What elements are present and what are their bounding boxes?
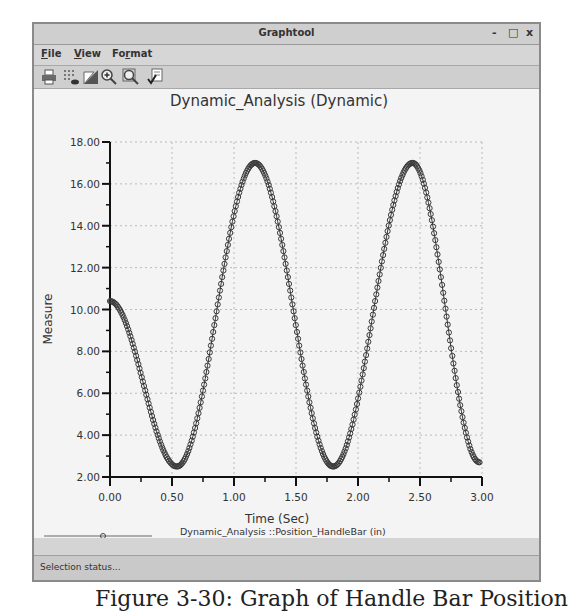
series-position-handlebar[interactable] (107, 160, 482, 469)
print-icon[interactable] (40, 68, 58, 86)
format-check-icon[interactable] (146, 68, 164, 86)
plot-area[interactable]: Dynamic_Analysis (Dynamic) 2.004.006.008… (34, 89, 539, 538)
svg-text:4.00: 4.00 (77, 429, 100, 441)
svg-text:8.00: 8.00 (77, 345, 100, 357)
figure-caption: Figure 3-30: Graph of Handle Bar Positio… (95, 586, 568, 611)
grid-toggle-icon[interactable] (62, 68, 80, 86)
title-bar[interactable]: Graphtool - □ x (34, 24, 539, 45)
legend[interactable]: Dynamic_Analysis ::Position_HandleBar (i… (44, 526, 386, 538)
y-axis-label: Measure (41, 294, 55, 345)
menu-bar: File View Format (34, 45, 539, 66)
menu-format-label: mat (130, 48, 152, 59)
menu-format[interactable]: Format (112, 48, 152, 59)
legend-label: Dynamic_Analysis ::Position_HandleBar (i… (180, 526, 386, 537)
x-axis-ticks: 0.000.501.001.502.002.503.00 (98, 477, 493, 503)
svg-text:2.00: 2.00 (77, 471, 100, 483)
close-button[interactable]: x (526, 26, 533, 39)
maximize-button[interactable]: □ (508, 26, 518, 39)
graphtool-window: Graphtool - □ x File View Format (32, 22, 541, 582)
svg-text:0.00: 0.00 (98, 491, 121, 503)
menu-view-label: iew (82, 48, 101, 59)
chart-title: Dynamic_Analysis (Dynamic) (170, 92, 388, 111)
menu-file-label: ile (48, 48, 62, 59)
toolbar (34, 66, 539, 89)
status-text: Selection status... (40, 562, 121, 572)
menu-file-mnemonic: F (41, 48, 48, 59)
svg-text:1.50: 1.50 (284, 491, 307, 503)
status-bar: Selection status... (34, 555, 539, 580)
menu-file[interactable]: File (41, 48, 61, 59)
zoom-in-icon[interactable] (100, 68, 118, 86)
menu-view[interactable]: View (74, 48, 101, 59)
svg-text:10.00: 10.00 (70, 304, 100, 316)
y-axis-ticks: 2.004.006.008.0010.0012.0014.0016.0018.0… (70, 136, 110, 483)
svg-text:18.00: 18.00 (70, 136, 100, 148)
zoom-fit-icon[interactable] (122, 68, 140, 86)
menu-format-pre: Fo (112, 48, 125, 59)
svg-text:2.50: 2.50 (408, 491, 431, 503)
window-title: Graphtool (34, 27, 539, 38)
svg-text:16.00: 16.00 (70, 178, 100, 190)
menu-view-mnemonic: V (74, 48, 82, 59)
svg-text:0.50: 0.50 (160, 491, 183, 503)
minimize-button[interactable]: - (492, 26, 497, 39)
background-color-icon[interactable] (82, 68, 100, 86)
svg-text:2.00: 2.00 (346, 491, 369, 503)
svg-text:14.00: 14.00 (70, 220, 100, 232)
svg-text:1.00: 1.00 (222, 491, 245, 503)
svg-text:6.00: 6.00 (77, 387, 100, 399)
svg-text:3.00: 3.00 (470, 491, 493, 503)
svg-text:12.00: 12.00 (70, 262, 100, 274)
x-axis-label: Time (Sec) (244, 512, 309, 526)
chart-canvas[interactable]: Dynamic_Analysis (Dynamic) 2.004.006.008… (34, 89, 539, 538)
